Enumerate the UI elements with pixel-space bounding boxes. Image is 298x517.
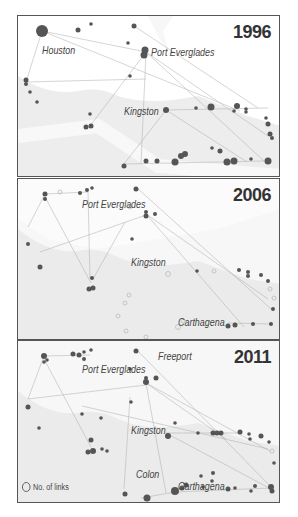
year-label: 1996 — [233, 22, 271, 43]
city-label-port-everglades: Port Everglades — [151, 46, 215, 58]
city-label-colon: Colon — [136, 468, 159, 480]
legend-label: No. of links — [33, 482, 69, 492]
city-label-carthagena: Carthagena — [178, 480, 225, 492]
city-label-freeport: Freeport — [158, 350, 192, 362]
map-panel-2006: 2006 Port Everglades Kingston Carthagena — [17, 178, 280, 340]
legend: No. of links — [22, 482, 69, 492]
city-label-houston: Houston — [42, 44, 75, 56]
city-label-kingston: Kingston — [131, 256, 166, 268]
map-panel-1996: 1996 Houston Port Everglades Kingston — [17, 15, 280, 177]
link-count-icon — [22, 482, 31, 492]
map-panel-2011: 2011 Freeport Port Everglades Kingston C… — [17, 340, 280, 503]
year-label: 2006 — [233, 185, 271, 206]
city-label-carthagena: Carthagena — [178, 316, 225, 328]
city-label-port-everglades: Port Everglades — [82, 363, 146, 375]
city-label-port-everglades: Port Everglades — [82, 198, 146, 210]
city-label-kingston: Kingston — [124, 105, 159, 117]
city-label-kingston: Kingston — [131, 424, 166, 436]
year-label: 2011 — [234, 347, 271, 368]
